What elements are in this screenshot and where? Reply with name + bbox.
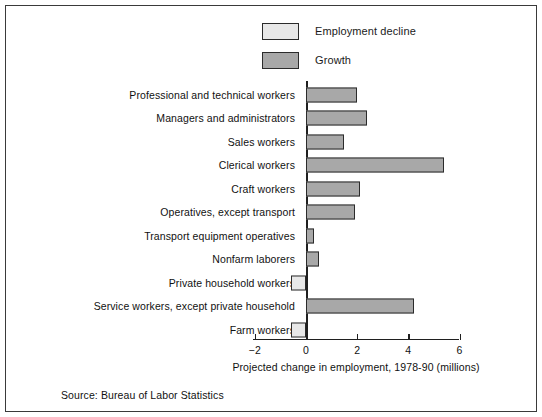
bar-growth [306, 111, 367, 126]
bar-growth [306, 181, 360, 196]
bar-row: Sales workers [6, 130, 538, 154]
bar-row: Managers and administrators [6, 107, 538, 131]
category-label: Service workers, except private househol… [94, 300, 295, 312]
bar-row: Professional and technical workers [6, 83, 538, 107]
category-label: Professional and technical workers [129, 89, 295, 101]
x-tick-label: 6 [457, 344, 463, 356]
category-label: Clerical workers [219, 159, 295, 171]
category-label: Farm workers [230, 324, 295, 336]
bar-decline [291, 275, 306, 290]
category-label: Nonfarm laborers [212, 253, 295, 265]
bar-row: Service workers, except private househol… [6, 295, 538, 319]
bar-row: Craft workers [6, 177, 538, 201]
source-note: Source: Bureau of Labor Statistics [61, 389, 224, 401]
plot-area: Professional and technical workersManage… [6, 6, 538, 413]
bar-growth [306, 299, 414, 314]
bar-growth [306, 158, 444, 173]
x-tick [306, 334, 307, 340]
category-label: Craft workers [231, 183, 295, 195]
x-tick [408, 334, 409, 340]
x-axis-title: Projected change in employment, 1978-90 … [232, 361, 479, 373]
chart-figure: Employment decline Growth Professional a… [0, 0, 542, 417]
category-label: Sales workers [228, 136, 295, 148]
category-label: Operatives, except transport [160, 206, 295, 218]
x-tick-label: 4 [405, 344, 411, 356]
category-label: Private household workers [169, 277, 295, 289]
bar-row: Operatives, except transport [6, 201, 538, 225]
bar-row: Nonfarm laborers [6, 248, 538, 272]
bar-growth [306, 134, 344, 149]
x-tick [460, 334, 461, 340]
x-tick-label: −2 [249, 344, 261, 356]
x-tick-label: 2 [354, 344, 360, 356]
x-tick [255, 334, 256, 340]
bar-growth [306, 252, 319, 267]
bar-growth [306, 87, 357, 102]
bar-growth [306, 228, 314, 243]
bar-decline [291, 322, 306, 337]
bar-row: Clerical workers [6, 154, 538, 178]
figure-frame: Employment decline Growth Professional a… [5, 5, 537, 412]
bar-row: Transport equipment operatives [6, 224, 538, 248]
x-tick-label: 0 [303, 344, 309, 356]
x-axis-line [253, 339, 459, 340]
bar-row: Private household workers [6, 271, 538, 295]
bar-row: Farm workers [6, 318, 538, 342]
bar-growth [306, 205, 355, 220]
category-label: Managers and administrators [156, 112, 295, 124]
category-label: Transport equipment operatives [144, 230, 295, 242]
x-tick [357, 334, 358, 340]
